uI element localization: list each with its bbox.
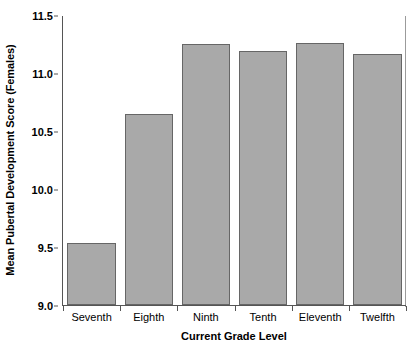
y-axis-tick-mark: [54, 248, 58, 249]
x-axis-tick-label: Twelfth: [360, 311, 395, 323]
y-axis-tick-mark: [54, 190, 58, 191]
bar-series: [63, 16, 406, 305]
y-axis-tick-label: 9.5: [38, 242, 53, 254]
x-axis-tick-mark: [406, 306, 407, 311]
y-axis-tick-label: 10.5: [32, 126, 53, 138]
bar-chart: Mean Pubertal Development Score (Females…: [0, 0, 415, 348]
y-axis-tick-label: 9.0: [38, 300, 53, 312]
y-axis-title-text: Mean Pubertal Development Score (Females…: [4, 44, 16, 275]
y-axis-tick-mark: [54, 74, 58, 75]
y-axis-tick-mark: [54, 16, 58, 17]
bar-eleventh: [296, 43, 344, 305]
x-axis-tick-label: Seventh: [71, 311, 111, 323]
x-axis-title: Current Grade Level: [62, 330, 406, 342]
bar-twelfth: [353, 54, 401, 305]
x-axis-tick-label: Tenth: [250, 311, 277, 323]
bar-tenth: [239, 51, 287, 305]
y-axis-tick-label: 10.0: [32, 184, 53, 196]
y-axis-tick-mark: [54, 132, 58, 133]
bar-eighth: [125, 114, 173, 305]
y-axis-tick-mark: [54, 306, 58, 307]
x-axis-tick-labels: SeventhEighthNinthTenthEleventhTwelfth: [63, 311, 406, 329]
bar-seventh: [67, 243, 115, 305]
y-axis-title: Mean Pubertal Development Score (Females…: [0, 0, 20, 320]
x-axis-tick-label: Eighth: [133, 311, 164, 323]
y-axis-tick-label: 11.0: [32, 68, 53, 80]
y-axis-tick-labels: 9.09.510.010.511.011.5: [20, 0, 58, 348]
x-axis-tick-label: Eleventh: [299, 311, 342, 323]
y-axis-tick-label: 11.5: [32, 10, 53, 22]
x-axis-tick-label: Ninth: [193, 311, 219, 323]
bar-ninth: [182, 44, 230, 305]
